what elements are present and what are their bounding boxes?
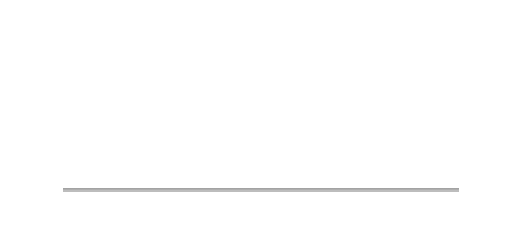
- axis-floor-edge: [63, 190, 459, 192]
- trend-line-series: [63, 10, 455, 190]
- figure-caption: [40, 231, 500, 241]
- chart-figure: [0, 0, 522, 241]
- plot-area: [63, 10, 455, 190]
